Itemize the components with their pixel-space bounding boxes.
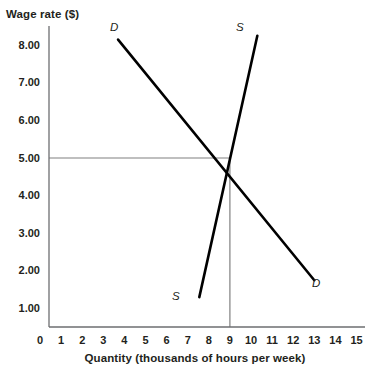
y-tick-label: 2.00 [0, 265, 40, 276]
supply-demand-chart: Wage rate ($) Quantity (thousands of hou… [0, 0, 390, 372]
y-tick-label: 1.00 [0, 303, 40, 314]
demand-curve [118, 40, 314, 281]
x-tick-label: 15 [345, 335, 369, 346]
plot-area [0, 0, 390, 372]
y-tick-label: 5.00 [0, 153, 40, 164]
y-tick-label: 3.00 [0, 228, 40, 239]
supply-curve-label-top: S [236, 22, 244, 33]
y-tick-label: 8.00 [0, 40, 40, 51]
y-tick-label: 7.00 [0, 77, 40, 88]
supply-curve-label-bottom: S [172, 291, 180, 302]
y-tick-label: 6.00 [0, 115, 40, 126]
demand-curve-label-top: D [110, 22, 118, 33]
demand-curve-label-bottom: D [312, 278, 320, 289]
supply-curve [199, 36, 257, 297]
y-tick-label: 4.00 [0, 190, 40, 201]
